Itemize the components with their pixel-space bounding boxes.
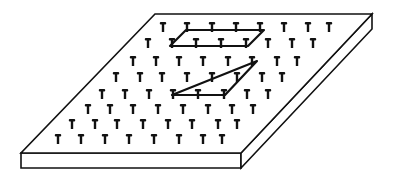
geoboard-diagram: Geoboard with rubber-band shapes	[0, 0, 396, 184]
peg-head	[195, 89, 201, 92]
peg-head	[279, 72, 285, 75]
peg-head	[99, 89, 105, 92]
peg-head	[205, 104, 211, 107]
peg-head	[145, 38, 151, 41]
peg-head	[209, 72, 215, 75]
peg-head	[189, 119, 195, 122]
peg-head	[165, 119, 171, 122]
peg-head	[176, 56, 182, 59]
peg-head	[146, 89, 152, 92]
peg-head	[114, 119, 120, 122]
peg-head	[184, 22, 190, 25]
peg-head	[243, 38, 249, 41]
peg-head	[180, 104, 186, 107]
peg-head	[126, 134, 132, 137]
peg-head	[310, 38, 316, 41]
peg-head	[170, 89, 176, 92]
peg-head	[130, 56, 136, 59]
peg-head	[259, 72, 265, 75]
peg-head	[209, 22, 215, 25]
peg-head	[234, 119, 240, 122]
peg-head	[234, 72, 240, 75]
peg-head	[249, 56, 255, 59]
peg-head	[233, 22, 239, 25]
peg-head	[184, 72, 190, 75]
peg-head	[265, 38, 271, 41]
peg-head	[326, 22, 332, 25]
geoboard-illustration	[0, 0, 396, 184]
peg-head	[151, 134, 157, 137]
peg-head	[122, 89, 128, 92]
peg-head	[219, 134, 225, 137]
peg-head	[257, 22, 263, 25]
peg-head	[225, 56, 231, 59]
peg-head	[200, 56, 206, 59]
peg-head	[250, 104, 256, 107]
peg-head	[113, 72, 119, 75]
board-front-face	[21, 153, 241, 168]
peg-head	[294, 56, 300, 59]
peg-head	[140, 119, 146, 122]
peg-head	[55, 134, 61, 137]
peg-head	[85, 104, 91, 107]
peg-head	[281, 22, 287, 25]
peg-head	[155, 104, 161, 107]
peg-head	[130, 104, 136, 107]
peg-head	[153, 56, 159, 59]
peg-head	[229, 104, 235, 107]
peg-head	[193, 38, 199, 41]
peg-head	[159, 72, 165, 75]
peg-head	[92, 119, 98, 122]
peg-head	[218, 38, 224, 41]
peg-head	[289, 38, 295, 41]
peg-head	[305, 22, 311, 25]
peg-head	[69, 119, 75, 122]
peg-head	[265, 89, 271, 92]
peg-head	[176, 134, 182, 137]
peg-head	[221, 89, 227, 92]
peg-head	[78, 134, 84, 137]
peg-head	[200, 134, 206, 137]
peg-head	[215, 119, 221, 122]
peg-head	[244, 89, 250, 92]
peg-head	[107, 104, 113, 107]
peg-head	[102, 134, 108, 137]
peg-head	[137, 72, 143, 75]
peg-head	[160, 22, 166, 25]
peg-head	[274, 56, 280, 59]
